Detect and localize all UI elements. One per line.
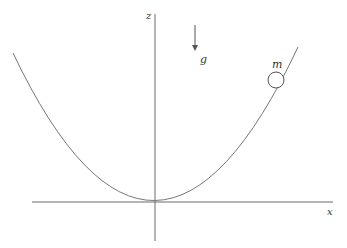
z-axis-label: z bbox=[145, 10, 152, 21]
mass-bead bbox=[268, 72, 284, 88]
gravity-label: g bbox=[200, 53, 207, 66]
mass-label: m bbox=[272, 58, 282, 71]
x-axis-label: x bbox=[327, 206, 333, 217]
parabola-diagram: z x g m bbox=[0, 0, 347, 248]
